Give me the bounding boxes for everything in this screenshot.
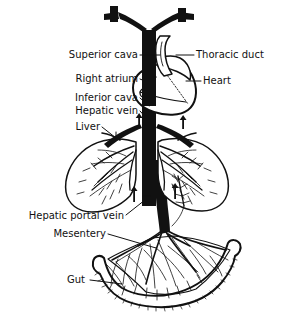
label-mesentery: Mesentery: [53, 228, 106, 239]
inferior-vena-cava-structure: [142, 104, 156, 206]
svc-left-stub: [110, 6, 118, 22]
label-thoracic-duct: Thoracic duct: [195, 49, 264, 60]
label-liver: Liver: [75, 121, 100, 132]
label-hepatic-portal-vein: Hepatic portal vein: [29, 210, 124, 221]
label-hepatic-vein: Hepatic vein: [75, 105, 138, 116]
label-heart: Heart: [203, 75, 231, 86]
figure-canvas: Superior cava Right atrium Inferior cava…: [0, 0, 284, 316]
superior-vena-cava-trunk: [142, 30, 156, 106]
label-superior-cava: Superior cava: [69, 49, 138, 60]
inferior-vena-cava-trunk: [142, 104, 156, 206]
label-inferior-cava: Inferior cava: [75, 92, 138, 103]
label-right-atrium: Right atrium: [75, 73, 138, 84]
svc-right-stub: [178, 8, 186, 22]
anatomical-diagram: Superior cava Right atrium Inferior cava…: [0, 0, 284, 316]
label-gut: Gut: [67, 274, 85, 285]
